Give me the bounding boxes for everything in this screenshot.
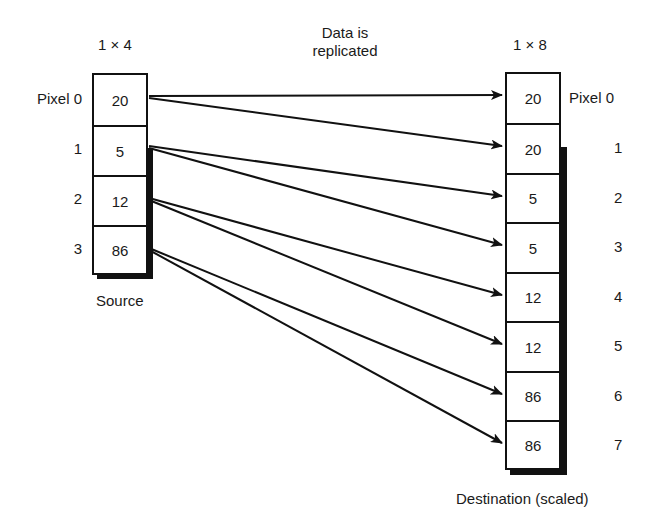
- destination-row-label-6: 6: [614, 387, 622, 404]
- destination-cell-2: 5: [507, 173, 559, 222]
- source-cell-2: 12: [94, 175, 146, 225]
- arrow-3-to-6: [149, 248, 502, 394]
- arrow-1-to-2: [149, 146, 502, 196]
- annotation-line-2: replicated: [280, 42, 410, 60]
- destination-row-label-1: 1: [614, 139, 622, 156]
- destination-row-label-5: 5: [614, 337, 622, 354]
- source-row-label-2: 2: [10, 190, 82, 207]
- destination-cell-1: 20: [507, 123, 559, 173]
- destination-row-label-3: 3: [614, 238, 622, 255]
- destination-cell-5: 12: [507, 321, 559, 371]
- destination-cell-0: 20: [507, 74, 559, 123]
- arrow-1-to-3: [149, 148, 502, 245]
- source-cell-1: 5: [94, 125, 146, 175]
- source-cell-0: 20: [94, 75, 146, 125]
- source-array: 20 5 12 86: [92, 73, 148, 275]
- destination-shadow-right: [560, 147, 567, 475]
- destination-cell-6: 86: [507, 371, 559, 420]
- arrow-3-to-7: [149, 250, 502, 443]
- destination-cell-4: 12: [507, 272, 559, 321]
- destination-cell-7: 86: [507, 420, 559, 468]
- source-row-label-0: Pixel 0: [10, 90, 82, 107]
- arrow-0-to-1: [149, 98, 502, 146]
- source-caption: Source: [96, 292, 144, 309]
- destination-array: 20 20 5 5 12 12 86 86: [505, 72, 561, 470]
- arrow-0-to-0: [149, 95, 502, 96]
- destination-row-label-2: 2: [614, 189, 622, 206]
- destination-row-label-7: 7: [614, 436, 622, 453]
- source-dims-label: 1 × 4: [98, 36, 132, 53]
- source-row-label-1: 1: [10, 140, 82, 157]
- destination-row-label-0: Pixel 0: [569, 89, 614, 106]
- source-cell-3: 86: [94, 225, 146, 273]
- annotation-line-1: Data is: [280, 24, 410, 42]
- destination-row-label-4: 4: [614, 288, 622, 305]
- arrow-2-to-5: [149, 200, 502, 344]
- destination-cell-3: 5: [507, 222, 559, 272]
- destination-caption: Destination (scaled): [456, 490, 589, 507]
- source-row-label-3: 3: [10, 240, 82, 257]
- replication-annotation: Data is replicated: [280, 24, 410, 60]
- arrow-2-to-4: [149, 198, 502, 295]
- destination-dims-label: 1 × 8: [513, 36, 547, 53]
